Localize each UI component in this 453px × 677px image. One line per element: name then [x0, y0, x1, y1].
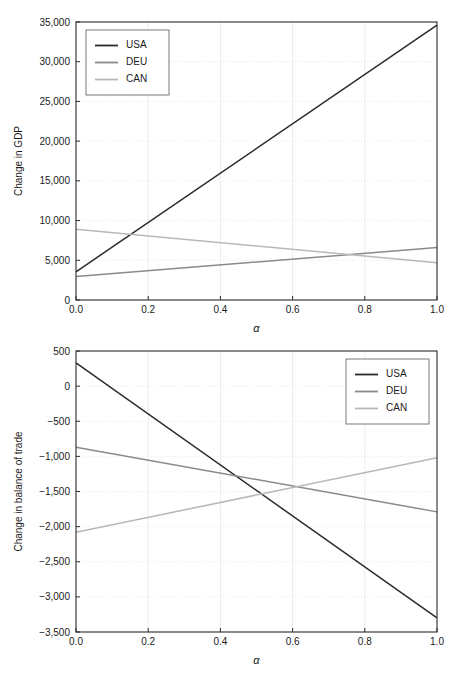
y-tick-label: 20,000	[39, 136, 70, 147]
gdp-line-chart: 05,00010,00015,00020,00025,00030,00035,0…	[0, 0, 453, 340]
y-tick-label: −1,500	[39, 486, 70, 497]
y-tick-label: 500	[53, 346, 70, 357]
legend-label-can: CAN	[126, 73, 147, 84]
y-axis-title: Change in balance of trade	[13, 431, 24, 552]
series-line-deu	[76, 447, 437, 512]
y-tick-label: −1,000	[39, 451, 70, 462]
x-axis-title: α	[253, 654, 260, 666]
x-tick-label: 0.0	[69, 304, 83, 315]
x-tick-label: 0.2	[141, 636, 155, 647]
y-tick-label: 5,000	[45, 255, 70, 266]
x-axis-title: α	[253, 322, 260, 334]
x-tick-label: 0.8	[358, 304, 372, 315]
y-tick-label: 35,000	[39, 17, 70, 28]
y-tick-label: 10,000	[39, 215, 70, 226]
series-line-can	[76, 229, 437, 262]
legend-label-deu: DEU	[386, 385, 407, 396]
y-tick-label: 30,000	[39, 56, 70, 67]
legend-label-usa: USA	[126, 39, 147, 50]
x-tick-label: 0.2	[141, 304, 155, 315]
x-tick-label: 0.6	[286, 636, 300, 647]
legend: USADEUCAN	[86, 30, 169, 95]
y-tick-label: −2,500	[39, 556, 70, 567]
legend-label-deu: DEU	[126, 56, 147, 67]
y-tick-label: −3,500	[39, 627, 70, 638]
legend-label-usa: USA	[386, 368, 407, 379]
y-tick-label: 15,000	[39, 175, 70, 186]
figure-root: 05,00010,00015,00020,00025,00030,00035,0…	[0, 0, 453, 677]
chart-panel-balance-of-trade: −3,500−3,000−2,500−2,000−1,500−1,000−500…	[0, 337, 453, 677]
x-tick-label: 0.0	[69, 636, 83, 647]
x-tick-label: 1.0	[430, 636, 444, 647]
legend: USADEUCAN	[346, 359, 429, 424]
y-tick-label: 0	[64, 381, 70, 392]
y-tick-label: −500	[47, 416, 70, 427]
x-tick-label: 0.4	[213, 636, 227, 647]
x-tick-label: 0.4	[213, 304, 227, 315]
y-axis-title: Change in GDP	[13, 126, 24, 196]
x-tick-label: 0.8	[358, 636, 372, 647]
chart-panel-gdp: 05,00010,00015,00020,00025,00030,00035,0…	[0, 0, 453, 340]
balance-of-trade-line-chart: −3,500−3,000−2,500−2,000−1,500−1,000−500…	[0, 337, 453, 677]
series-line-deu	[76, 248, 437, 277]
x-tick-label: 1.0	[430, 304, 444, 315]
series-line-can	[76, 458, 437, 532]
y-tick-label: −3,000	[39, 591, 70, 602]
legend-label-can: CAN	[386, 402, 407, 413]
y-tick-label: −2,000	[39, 521, 70, 532]
y-tick-label: 25,000	[39, 96, 70, 107]
x-tick-label: 0.6	[286, 304, 300, 315]
